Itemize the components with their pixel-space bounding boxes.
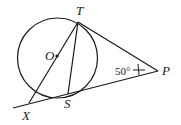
label-t: T [76,3,84,18]
chord-ts [68,22,78,94]
geometry-diagram: T O P X S 50° [0,0,181,125]
secant-xp [13,71,158,108]
label-x: X [21,108,31,123]
center-point [55,54,58,57]
tangent-tp [78,22,158,71]
label-s: S [64,96,71,111]
angle-label: 50° [115,65,130,77]
circle [18,18,98,98]
label-p: P [161,63,170,78]
label-o: O [45,48,55,63]
